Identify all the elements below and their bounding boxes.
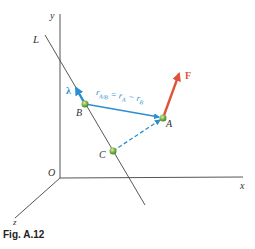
dashed-vector-CA bbox=[113, 120, 160, 151]
y-axis-label: y bbox=[50, 11, 54, 21]
figure-a12: y L λ B A C F O x z rA/B = rA − rB Fig. … bbox=[0, 0, 255, 249]
lambda-label: λ bbox=[66, 86, 71, 96]
point-C bbox=[110, 148, 117, 155]
force-label: F bbox=[185, 71, 191, 81]
z-axis-label: z bbox=[13, 218, 17, 227]
point-B-label: B bbox=[76, 108, 82, 118]
x-axis bbox=[60, 177, 243, 178]
force-vector-F bbox=[163, 74, 179, 118]
figure-caption: Fig. A.12 bbox=[3, 229, 44, 240]
origin-label: O bbox=[48, 168, 55, 178]
subscript-ab: A/B bbox=[99, 93, 109, 100]
point-C-label: C bbox=[99, 150, 106, 160]
vector-r-AB bbox=[85, 104, 159, 117]
z-axis bbox=[15, 178, 60, 218]
point-A-label: A bbox=[166, 119, 172, 129]
x-axis-label: x bbox=[240, 181, 244, 191]
point-B bbox=[82, 101, 89, 108]
line-L-label: L bbox=[33, 34, 39, 45]
